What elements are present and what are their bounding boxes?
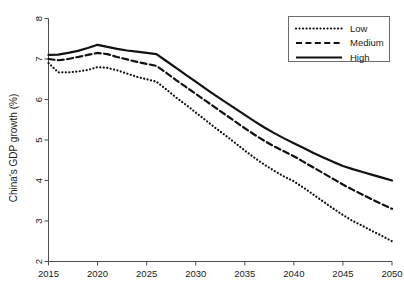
y-tick-label: 8	[33, 16, 44, 21]
y-axis-ticks: 2345678	[33, 16, 48, 264]
y-tick-label: 5	[33, 137, 44, 142]
x-tick-label: 2030	[185, 268, 206, 279]
x-tick-label: 2050	[381, 268, 402, 279]
series-line-medium	[49, 53, 393, 209]
x-tick-label: 2015	[38, 268, 59, 279]
x-tick-label: 2045	[332, 268, 353, 279]
chart-legend: LowMediumHigh	[289, 17, 390, 63]
x-tick-label: 2025	[136, 268, 157, 279]
y-tick-label: 2	[33, 259, 44, 264]
series-line-low	[49, 63, 393, 241]
series-line-high	[49, 45, 393, 181]
legend-label-high: High	[350, 52, 370, 63]
y-axis: 2345678	[33, 16, 48, 264]
legend-label-medium: Medium	[350, 37, 384, 48]
series-lines	[49, 45, 393, 241]
chart-container: 2345678 20152020202520302035204020452050…	[0, 0, 404, 297]
x-axis: 20152020202520302035204020452050	[38, 262, 403, 279]
legend-label-low: Low	[350, 23, 368, 34]
x-tick-label: 2020	[87, 268, 108, 279]
gdp-growth-line-chart: 2345678 20152020202520302035204020452050…	[0, 0, 404, 297]
y-tick-label: 6	[33, 97, 44, 102]
y-tick-label: 7	[33, 56, 44, 61]
y-axis-title: China's GDP growth (%)	[8, 94, 19, 202]
x-tick-label: 2040	[283, 268, 304, 279]
y-tick-label: 4	[33, 178, 44, 183]
x-tick-label: 2035	[234, 268, 255, 279]
y-tick-label: 3	[33, 218, 44, 223]
x-axis-ticks: 20152020202520302035204020452050	[38, 262, 403, 279]
